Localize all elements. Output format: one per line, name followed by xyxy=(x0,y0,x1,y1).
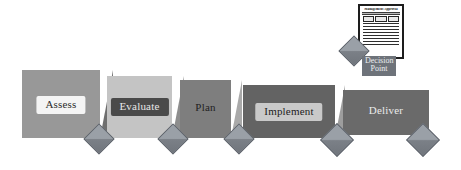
stage-plan-label-plate: Plan xyxy=(195,102,215,113)
document-title: Management Approval xyxy=(361,8,401,11)
stage-deliver-label-plate: Deliver xyxy=(369,105,403,116)
stage-evaluate-label: Evaluate xyxy=(119,100,159,112)
stage-plan-label: Plan xyxy=(195,101,215,113)
document-cell-row xyxy=(363,16,399,22)
stage-implement-label-plate: Implement xyxy=(255,103,322,121)
stage-implement-label: Implement xyxy=(264,105,313,117)
stage-implement[interactable]: Implement xyxy=(243,85,335,138)
stage-deliver-label: Deliver xyxy=(369,104,403,116)
document-cell-1 xyxy=(363,16,374,22)
stage-assess[interactable]: Assess xyxy=(22,70,100,138)
decision-point-group[interactable]: Management Approval Decision Point xyxy=(340,4,420,84)
stage-evaluate[interactable]: Evaluate xyxy=(107,76,172,138)
document-text-lines xyxy=(363,23,399,45)
document-cell-3 xyxy=(388,16,399,22)
document-cell-2 xyxy=(375,16,386,22)
decision-point-caption: Decision Point xyxy=(362,56,396,76)
process-flow-diagram: Assess Evaluate Plan Implement Deliver xyxy=(0,0,461,170)
stage-assess-label: Assess xyxy=(45,98,76,110)
stage-evaluate-label-plate: Evaluate xyxy=(110,98,168,116)
document-header-band xyxy=(362,12,400,15)
decision-point-caption-line2: Point xyxy=(365,65,393,73)
stage-plan[interactable]: Plan xyxy=(180,80,231,138)
stage-assess-label-plate: Assess xyxy=(36,96,85,114)
